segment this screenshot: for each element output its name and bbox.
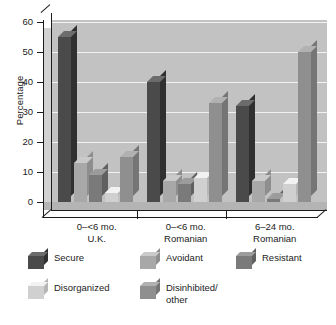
bar-front-face [120,157,133,202]
x-axis-line [43,217,318,218]
bar-secure-group3 [236,106,249,202]
y-axis-line-back [51,13,52,211]
legend-swatch-icon [236,256,252,269]
bar-chart-figure: Percentage 6050403020100 0–<6 mo.U.K.0–<… [0,0,336,325]
gridline-30 [52,112,327,113]
y-axis-line [43,20,44,218]
bar-front-face [252,181,265,202]
bar-front-face [147,82,160,202]
legend-swatch-side [252,248,256,265]
bar-front-face [298,52,311,202]
y-tick-label-30: 30 [13,107,33,117]
legend-swatch-side [44,248,48,265]
x-axis-line-back [51,210,327,211]
x-group-label-3: 6–24 mo.Romanian [220,221,330,244]
bar-disorganized-group1 [105,193,118,202]
bar-avoidant-group3 [252,181,265,202]
bar-side-face [311,40,317,196]
gridline-40 [52,82,327,83]
bar-front-face [58,37,71,202]
bar-disorganized-group3 [283,184,296,202]
y-tick-label-50: 50 [13,47,33,57]
bar-front-face [283,184,296,202]
legend-swatch-icon [140,256,156,269]
legend-swatch-side [156,278,160,295]
legend-label: Avoidant [166,252,203,264]
bar-front-face [209,103,222,202]
x-tick-2 [226,210,227,219]
bar-avoidant-group1 [74,163,87,202]
bar-disinhibitedother-group2 [209,103,222,202]
y-tick-label-20: 20 [13,137,33,147]
plot-area [44,20,327,210]
legend-swatch-icon [28,286,44,299]
bar-front-face [267,199,280,202]
bar-resistant-group3 [267,199,280,202]
bar-secure-group2 [147,82,160,202]
legend-swatch-front [28,286,44,299]
x-tick-1 [137,210,138,219]
y-tick-label-10: 10 [13,167,33,177]
gridline-50 [52,52,327,53]
bar-resistant-group1 [89,175,102,202]
x-group-label-line: Romanian [220,233,330,245]
gridline-60 [52,22,327,23]
x-group-label-line: 6–24 mo. [220,221,330,233]
legend-swatch-icon [28,256,44,269]
bar-front-face [89,175,102,202]
bar-side-face [222,91,228,196]
y-axis-depth-top [41,4,51,13]
plot-floor [44,202,327,210]
bar-front-face [105,193,118,202]
legend-swatch-front [28,256,44,269]
legend-label: Resistant [262,252,302,264]
gridline-20 [52,142,327,143]
y-tick-label-40: 40 [13,77,33,87]
bar-resistant-group2 [178,184,191,202]
legend-swatch-side [44,278,48,295]
legend-label: Disorganized [54,282,109,294]
y-tick-label-60: 60 [13,17,33,27]
y-tick-label-0: 0 [13,197,33,207]
bar-front-face [163,181,176,202]
legend-label: Secure [54,252,84,264]
legend-swatch-front [236,256,252,269]
legend-swatch-side [156,248,160,265]
bar-front-face [194,178,207,202]
legend-label: Disinhibited/ other [166,282,218,305]
bar-avoidant-group2 [163,181,176,202]
bar-disinhibitedother-group3 [298,52,311,202]
bar-front-face [74,163,87,202]
bar-front-face [178,184,191,202]
bar-secure-group1 [58,37,71,202]
legend-swatch-icon [140,286,156,299]
bar-disorganized-group2 [194,178,207,202]
bar-disinhibitedother-group1 [120,157,133,202]
legend-swatch-front [140,286,156,299]
legend-swatch-front [140,256,156,269]
bar-front-face [236,106,249,202]
